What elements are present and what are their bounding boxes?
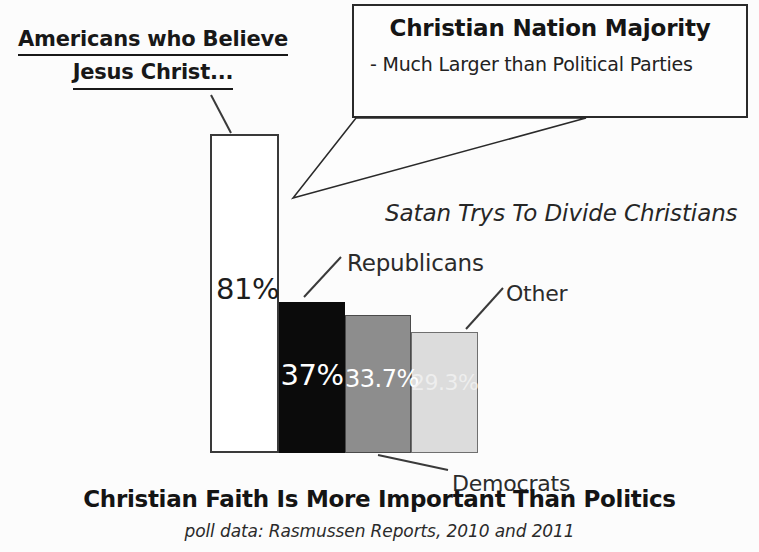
chart-infographic: Americans who Believe Jesus Christ... Ch… — [0, 0, 759, 552]
headline-line-1: Americans who Believe — [8, 26, 298, 56]
headline-line-2: Jesus Christ... — [8, 59, 298, 89]
bar-value-americans-who-believe: 81% — [216, 272, 278, 306]
leader-line-democrats — [378, 455, 448, 470]
leader-line-other — [466, 288, 503, 329]
annotation-other: Other — [506, 281, 567, 306]
callout-title: Christian Nation Majority — [366, 15, 734, 41]
footer-title: Christian Faith Is More Important Than P… — [0, 486, 759, 512]
annotation-republicans: Republicans — [347, 250, 484, 276]
callout-tail — [293, 118, 586, 198]
annotation-satan: Satan Trys To Divide Christians — [385, 200, 738, 226]
leader-line-republicans — [304, 257, 341, 297]
leader-line-headline — [211, 95, 231, 133]
callout-subtitle: - Much Larger than Political Parties — [366, 53, 734, 75]
footer-source: poll data: Rasmussen Reports, 2010 and 2… — [0, 521, 759, 541]
bar-value-other: 29.3% — [411, 370, 478, 395]
callout-box: Christian Nation Majority - Much Larger … — [352, 4, 748, 118]
bar-value-republicans: 37% — [280, 358, 344, 392]
bar-value-democrats: 33.7% — [345, 365, 411, 393]
headline: Americans who Believe Jesus Christ... — [8, 26, 298, 93]
